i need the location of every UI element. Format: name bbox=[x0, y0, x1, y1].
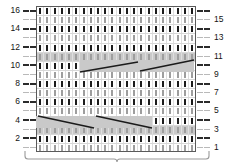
stitch-cell[interactable] bbox=[160, 16, 167, 24]
stitch-cell[interactable] bbox=[124, 71, 131, 79]
stitch-cell[interactable] bbox=[95, 25, 102, 33]
stitch-cell[interactable] bbox=[182, 44, 189, 52]
chart-row-16[interactable] bbox=[37, 7, 195, 16]
stitch-cell[interactable] bbox=[167, 89, 174, 97]
stitch-cell[interactable] bbox=[102, 62, 109, 70]
stitch-cell[interactable] bbox=[146, 53, 153, 61]
stitch-cell[interactable] bbox=[88, 34, 95, 42]
stitch-cell[interactable] bbox=[124, 25, 131, 33]
stitch-cell[interactable] bbox=[109, 80, 116, 88]
stitch-cell[interactable] bbox=[167, 126, 174, 134]
stitch-cell[interactable] bbox=[44, 135, 51, 143]
stitch-cell[interactable] bbox=[167, 25, 174, 33]
stitch-cell[interactable] bbox=[51, 89, 58, 97]
stitch-cell[interactable] bbox=[37, 107, 44, 115]
stitch-cell[interactable] bbox=[131, 135, 138, 143]
stitch-cell[interactable] bbox=[51, 107, 58, 115]
stitch-cell[interactable] bbox=[167, 44, 174, 52]
stitch-cell[interactable] bbox=[189, 126, 195, 134]
chart-row-6[interactable] bbox=[37, 98, 195, 107]
stitch-cell[interactable] bbox=[44, 71, 51, 79]
stitch-cell[interactable] bbox=[131, 98, 138, 106]
stitch-cell[interactable] bbox=[124, 117, 131, 125]
stitch-cell[interactable] bbox=[37, 25, 44, 33]
stitch-cell[interactable] bbox=[146, 7, 153, 15]
stitch-cell[interactable] bbox=[44, 126, 51, 134]
stitch-cell[interactable] bbox=[59, 135, 66, 143]
stitch-cell[interactable] bbox=[117, 80, 124, 88]
stitch-cell[interactable] bbox=[37, 98, 44, 106]
stitch-cell[interactable] bbox=[95, 135, 102, 143]
stitch-cell[interactable] bbox=[124, 107, 131, 115]
stitch-cell[interactable] bbox=[51, 117, 58, 125]
stitch-cell[interactable] bbox=[44, 89, 51, 97]
stitch-cell[interactable] bbox=[189, 16, 195, 24]
stitch-cell[interactable] bbox=[59, 7, 66, 15]
stitch-cell[interactable] bbox=[153, 117, 160, 125]
stitch-cell[interactable] bbox=[117, 53, 124, 61]
stitch-cell[interactable] bbox=[66, 117, 73, 125]
stitch-cell[interactable] bbox=[160, 98, 167, 106]
stitch-cell[interactable] bbox=[102, 7, 109, 15]
stitch-cell[interactable] bbox=[109, 53, 116, 61]
stitch-cell[interactable] bbox=[73, 44, 80, 52]
stitch-cell[interactable] bbox=[138, 71, 145, 79]
chart-row-10[interactable] bbox=[37, 62, 195, 71]
stitch-cell[interactable] bbox=[109, 44, 116, 52]
stitch-cell[interactable] bbox=[182, 89, 189, 97]
stitch-cell[interactable] bbox=[95, 89, 102, 97]
chart-grid[interactable] bbox=[36, 6, 196, 152]
stitch-cell[interactable] bbox=[59, 98, 66, 106]
stitch-cell[interactable] bbox=[66, 107, 73, 115]
stitch-cell[interactable] bbox=[138, 7, 145, 15]
stitch-cell[interactable] bbox=[66, 34, 73, 42]
stitch-cell[interactable] bbox=[146, 34, 153, 42]
stitch-cell[interactable] bbox=[174, 16, 181, 24]
stitch-cell[interactable] bbox=[124, 135, 131, 143]
stitch-cell[interactable] bbox=[66, 62, 73, 70]
stitch-cell[interactable] bbox=[80, 80, 87, 88]
stitch-cell[interactable] bbox=[73, 71, 80, 79]
stitch-cell[interactable] bbox=[51, 25, 58, 33]
stitch-cell[interactable] bbox=[102, 80, 109, 88]
stitch-cell[interactable] bbox=[174, 80, 181, 88]
stitch-cell[interactable] bbox=[102, 89, 109, 97]
stitch-cell[interactable] bbox=[138, 16, 145, 24]
stitch-cell[interactable] bbox=[44, 107, 51, 115]
stitch-cell[interactable] bbox=[109, 98, 116, 106]
stitch-cell[interactable] bbox=[59, 25, 66, 33]
stitch-cell[interactable] bbox=[73, 25, 80, 33]
stitch-cell[interactable] bbox=[182, 117, 189, 125]
stitch-cell[interactable] bbox=[131, 62, 138, 70]
stitch-cell[interactable] bbox=[66, 53, 73, 61]
chart-row-4[interactable] bbox=[37, 117, 195, 126]
stitch-cell[interactable] bbox=[66, 80, 73, 88]
stitch-cell[interactable] bbox=[146, 89, 153, 97]
stitch-cell[interactable] bbox=[167, 7, 174, 15]
stitch-cell[interactable] bbox=[73, 107, 80, 115]
stitch-cell[interactable] bbox=[44, 7, 51, 15]
stitch-cell[interactable] bbox=[160, 34, 167, 42]
stitch-cell[interactable] bbox=[117, 98, 124, 106]
chart-row-2[interactable] bbox=[37, 135, 195, 144]
stitch-cell[interactable] bbox=[167, 80, 174, 88]
stitch-cell[interactable] bbox=[153, 25, 160, 33]
stitch-cell[interactable] bbox=[37, 126, 44, 134]
stitch-cell[interactable] bbox=[88, 89, 95, 97]
stitch-cell[interactable] bbox=[66, 135, 73, 143]
chart-row-13[interactable] bbox=[37, 34, 195, 43]
stitch-cell[interactable] bbox=[44, 80, 51, 88]
stitch-cell[interactable] bbox=[160, 135, 167, 143]
stitch-cell[interactable] bbox=[73, 126, 80, 134]
stitch-cell[interactable] bbox=[51, 71, 58, 79]
stitch-cell[interactable] bbox=[95, 7, 102, 15]
stitch-cell[interactable] bbox=[131, 53, 138, 61]
stitch-cell[interactable] bbox=[153, 16, 160, 24]
stitch-cell[interactable] bbox=[182, 107, 189, 115]
chart-row-7[interactable] bbox=[37, 89, 195, 98]
stitch-cell[interactable] bbox=[102, 53, 109, 61]
stitch-cell[interactable] bbox=[189, 117, 195, 125]
chart-row-3[interactable] bbox=[37, 126, 195, 135]
stitch-cell[interactable] bbox=[174, 44, 181, 52]
stitch-cell[interactable] bbox=[153, 7, 160, 15]
